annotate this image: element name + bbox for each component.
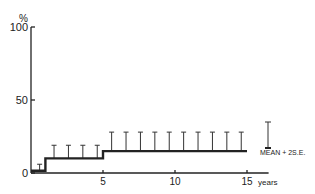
x-tick-label: 10 (169, 176, 181, 187)
y-tick-label: 50 (16, 94, 28, 106)
mean-step-line (31, 151, 247, 171)
x-axis-label: years (258, 178, 278, 187)
marks (31, 132, 247, 171)
legend: MEAN + 2S.E. (260, 122, 305, 156)
y-tick-label: 0 (22, 167, 28, 179)
x-tick-label: 15 (241, 176, 253, 187)
step-chart: 05010051015 % years MEAN + 2S.E. (0, 0, 315, 194)
legend-label: MEAN + 2S.E. (260, 149, 305, 156)
axes: 05010051015 (10, 21, 269, 187)
x-tick-label: 5 (100, 176, 106, 187)
y-axis-label: % (19, 13, 28, 24)
